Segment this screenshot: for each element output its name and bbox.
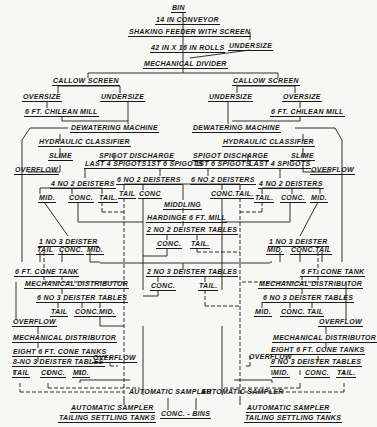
- node-right-t6-conc: Conc.: [280, 308, 306, 317]
- node-right-auto-sampler2: Automatic Sampler: [246, 404, 331, 413]
- node-right-t6-tail: Tail: [306, 308, 324, 317]
- node-left-mech-dist: Mechanical Distributor: [24, 280, 129, 289]
- node-2no2-tail: Tail.: [190, 240, 210, 249]
- node-left-oversize: Oversize: [22, 93, 62, 102]
- node-right-6tables: 6 No 3 Deister Tables: [262, 294, 354, 303]
- node-right-undersize: Undersize: [208, 93, 253, 102]
- node-left-chilean-mill: 6 ft. Chilean Mill: [24, 108, 99, 117]
- node-rolls: 42 in x 16 in Rolls: [150, 44, 225, 53]
- node-left-undersize: Undersize: [100, 93, 145, 102]
- node-left-t6-tail: Tail: [50, 308, 68, 317]
- node-right-d3-mid: Mid.: [266, 246, 284, 255]
- node-center-right-tail: Tail.: [234, 190, 254, 199]
- node-left-t6-mid: Mid.: [98, 308, 116, 317]
- node-left-t8-conc: Conc.: [40, 369, 66, 378]
- node-right-d4-tail: Tail.: [254, 194, 274, 203]
- node-right-t8-mid: Mid.: [272, 369, 290, 378]
- node-left-6tables: 6 No 3 Deister Tables: [36, 294, 128, 303]
- node-right-chilean-mill: 6 ft. Chilean Mill: [270, 108, 345, 117]
- node-conc-bins: Conc. - Bins: [160, 410, 211, 419]
- node-right-dewatering: Dewatering Machine: [192, 124, 281, 133]
- node-undersize-top: Undersize: [228, 42, 273, 51]
- node-center-left-tail: Tail: [118, 190, 136, 199]
- node-right-mech-dist: Mechanical Distributor: [258, 280, 363, 289]
- node-left-d3-tail: Tail: [36, 246, 54, 255]
- node-left-d4-conc: Conc.: [68, 194, 94, 203]
- node-right-last4: Last 4 Spigots: [248, 160, 311, 169]
- node-center-left-conc: Conc: [138, 190, 162, 199]
- node-left-callow-screen: Callow Screen: [52, 77, 120, 86]
- node-left-auto-sampler2: Automatic Sampler: [70, 404, 155, 413]
- node-left-overflow: Overflow: [14, 166, 59, 175]
- node-right-d4-mid: Mid.: [310, 194, 328, 203]
- node-left-t6-conc: Conc.: [74, 308, 100, 317]
- node-left-mech-dist2: Mechanical Distributor: [12, 334, 117, 343]
- node-center-6deisters-left: 6 No 2 Deisters: [116, 176, 182, 185]
- node-middling: Middling: [163, 201, 202, 210]
- node-left-t8-tail: Tail: [12, 369, 30, 378]
- node-center-right-conc: Conc.: [210, 190, 236, 199]
- node-right-d3-tail: Tail: [314, 246, 332, 255]
- node-bin: Bin: [171, 4, 186, 13]
- node-right-d3-conc: Conc.: [290, 246, 316, 255]
- node-2no3-tables: 2 No 3 Deister Tables: [146, 268, 238, 277]
- node-right-t8-tail: Tail.: [336, 369, 356, 378]
- node-hardinge-mill: Hardinge 6 ft. Mill: [146, 214, 227, 223]
- node-left-t8-mid: Mid.: [72, 369, 90, 378]
- node-right-cone-tank: 6 ft. Cone Tank: [300, 268, 365, 277]
- node-right-tailing-tanks: Tailing Settling Tanks: [244, 414, 342, 423]
- node-left-d4-tail: Tail.: [98, 194, 118, 203]
- node-right-t6-mid: Mid.: [254, 308, 272, 317]
- node-right-overflow2: Overflow: [318, 318, 363, 327]
- node-mechanical-divider: Mechanical Divider: [143, 60, 228, 69]
- node-2no2-tables: 2 No 2 Deister Tables: [146, 226, 238, 235]
- node-conveyor: 14 in Conveyor: [155, 16, 220, 25]
- node-left-cone-tank: 6 ft. Cone Tank: [14, 268, 79, 277]
- node-left-tailing-tanks: Tailing Settling Tanks: [58, 414, 156, 423]
- node-left-d3-conc: Conc.: [58, 246, 84, 255]
- node-2no3-tail: Tail.: [198, 282, 218, 291]
- node-right-auto-sampler: Automatic Sampler: [200, 388, 285, 396]
- node-left-last4: Last 4 Spigots: [84, 160, 147, 169]
- node-right-hydraulic: Hydraulic Classifier: [222, 138, 315, 147]
- node-2no2-conc: Conc.: [156, 240, 182, 249]
- node-center-6deisters-right: 6 No 2 Deisters: [190, 176, 256, 185]
- node-left-d4-mid: Mid.: [38, 194, 56, 203]
- node-right-mech-dist2: Mechanical Distributor: [272, 334, 377, 343]
- node-right-d4-conc: Conc.: [280, 194, 306, 203]
- node-2no3-conc: Conc.: [150, 282, 176, 291]
- node-shaking-feeder: Shaking Feeder with Screen: [128, 28, 251, 37]
- node-right-oversize: Oversize: [282, 93, 322, 102]
- node-left-8tables: 8-No 3 Deister Tables: [12, 358, 105, 367]
- node-right-t8-conc: Conc.: [304, 369, 330, 378]
- node-left-slime: Slime: [48, 152, 73, 161]
- node-left-d3-mid: Mid.: [86, 246, 104, 255]
- node-left-overflow3: Overflow: [92, 354, 137, 363]
- node-right-4deisters: 4 No 2 Deisters: [258, 180, 324, 189]
- node-left-hydraulic: Hydraulic Classifier: [38, 138, 131, 147]
- node-right-8tables: 8 No 3 Deister Tables: [270, 358, 362, 367]
- node-right-first6: 1st 6 Spigots: [194, 160, 252, 169]
- node-right-overflow: Overflow: [310, 166, 355, 175]
- node-left-4deisters: 4 No 2 Deisters: [50, 180, 116, 189]
- node-left-dewatering: Dewatering Machine: [70, 124, 159, 133]
- node-left-overflow2: Overflow: [12, 318, 57, 327]
- node-right-callow-screen: Callow Screen: [232, 77, 300, 86]
